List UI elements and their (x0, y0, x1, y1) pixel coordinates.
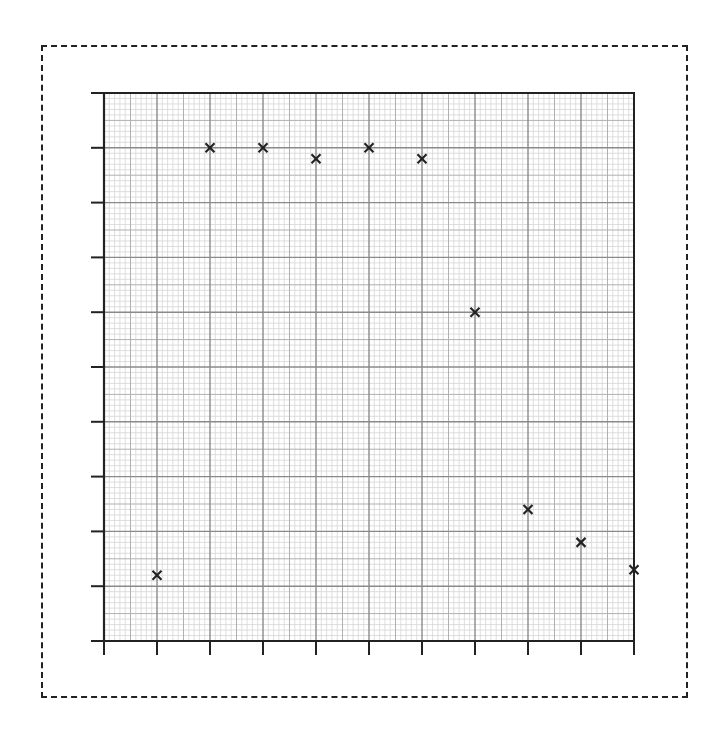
axis-ticks (91, 93, 634, 655)
graph-paper-chart (0, 0, 727, 742)
